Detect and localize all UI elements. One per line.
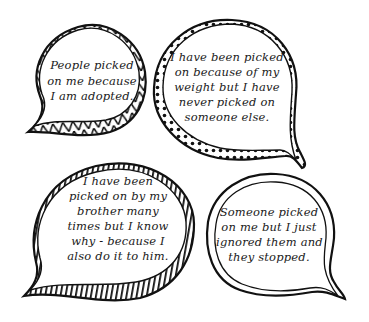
- text-line: why - because I: [66, 234, 170, 249]
- bubble-text-brother: I have been picked on by my brother many…: [66, 174, 170, 264]
- text-line: I have been: [66, 174, 170, 189]
- text-line: People picked: [44, 58, 140, 74]
- bubble-text-ignored: Someone picked on me but I just ignored …: [216, 205, 322, 265]
- text-line: I have been picked: [168, 50, 286, 65]
- text-line: someone else.: [168, 110, 286, 125]
- text-line: never picked on: [168, 95, 286, 110]
- text-line: on me but I just: [216, 220, 322, 235]
- text-line: also do it to him.: [66, 249, 170, 264]
- text-line: on because of my: [168, 65, 286, 80]
- text-line: I am adopted.: [44, 89, 140, 105]
- text-line: on me because: [44, 74, 140, 90]
- bubble-text-weight: I have been picked on because of my weig…: [168, 50, 286, 125]
- text-line: picked on by my: [66, 189, 170, 204]
- text-line: Someone picked: [216, 205, 322, 220]
- text-line: ignored them and: [216, 235, 322, 250]
- text-line: weight but I have: [168, 80, 286, 95]
- bubble-text-adopted: People picked on me because I am adopted…: [44, 58, 140, 105]
- text-line: they stopped.: [216, 250, 322, 265]
- text-line: times but I know: [66, 219, 170, 234]
- speech-bubbles-illustration: [0, 0, 369, 322]
- text-line: brother many: [66, 204, 170, 219]
